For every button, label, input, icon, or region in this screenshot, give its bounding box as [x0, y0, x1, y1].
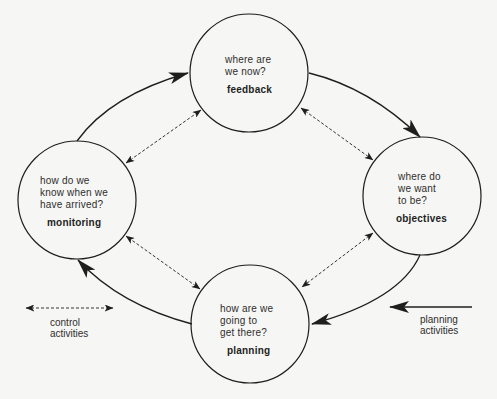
planning-activities-legend: planning activities	[420, 314, 458, 336]
control-link-objectives-planning	[302, 233, 373, 287]
monitoring-question: how do we know when we have arrived?	[40, 175, 108, 211]
objectives-label: objectives	[396, 213, 447, 225]
control-link-planning-monitoring	[126, 236, 200, 289]
feedback-question: where are we now?	[225, 54, 272, 78]
objectives-question: where do we want to be?	[398, 171, 447, 207]
monitoring-label: monitoring	[47, 217, 108, 229]
planning-label: planning	[227, 345, 273, 357]
feedback-label: feedback	[227, 84, 272, 96]
objectives-text: where do we want to be? objectives	[398, 171, 447, 225]
feedback-text: where are we now? feedback	[225, 54, 272, 96]
arrow-feedback-to-objectives	[309, 73, 420, 137]
control-link-monitoring-feedback	[126, 110, 201, 163]
control-link-feedback-objectives	[301, 108, 373, 160]
control-activities-legend: control activities	[50, 317, 88, 339]
planning-text: how are we going to get there? planning	[220, 303, 273, 357]
arrow-objectives-to-planning	[312, 255, 420, 324]
planning-question: how are we going to get there?	[220, 303, 273, 339]
monitoring-text: how do we know when we have arrived? mon…	[40, 175, 108, 229]
arrow-planning-to-monitoring	[78, 260, 192, 324]
